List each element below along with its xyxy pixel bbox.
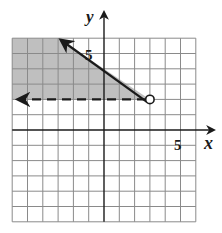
y-tick-label-5: 5 xyxy=(85,47,93,63)
x-axis-label: x xyxy=(203,133,213,153)
coordinate-graph: y 5 5 x xyxy=(0,0,222,233)
y-axis-label: y xyxy=(84,7,94,26)
open-circle-endpoint xyxy=(146,95,154,103)
x-tick-label-5: 5 xyxy=(174,137,182,153)
